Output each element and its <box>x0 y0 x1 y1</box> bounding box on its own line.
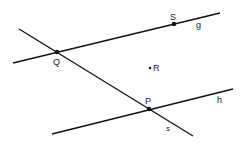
label-line-g: g <box>196 20 201 30</box>
label-point-S: S <box>170 12 176 22</box>
label-point-R: R <box>153 63 160 73</box>
point-S <box>172 22 176 26</box>
label-line-h: h <box>217 95 222 105</box>
point-R <box>149 67 151 69</box>
label-point-P: P <box>145 96 151 106</box>
label-line-s: s <box>166 124 170 133</box>
label-point-Q: Q <box>53 57 60 67</box>
line-h <box>52 89 233 134</box>
point-P <box>147 107 151 111</box>
geometry-diagram: g s h S Q R P <box>0 0 243 162</box>
point-Q <box>55 50 59 54</box>
line-g <box>13 13 220 63</box>
